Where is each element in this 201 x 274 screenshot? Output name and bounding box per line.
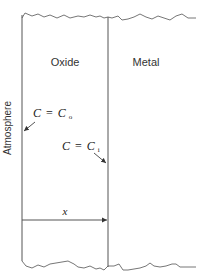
svg-text:C = C o: C = C o — [33, 106, 73, 121]
svg-text:C = C i: C = C i — [62, 139, 100, 154]
outer-rhs: C — [58, 106, 67, 120]
bottom-break-edge — [22, 261, 196, 270]
oxide-label: Oxide — [51, 56, 80, 68]
outer-sub: o — [69, 113, 73, 121]
outer-concentration-arrow — [24, 122, 35, 131]
inner-rhs: C — [87, 139, 96, 153]
oxide-metal-diagram: Oxide Metal Atmosphere C = C o C = C i x — [0, 0, 201, 274]
inner-eq: = — [75, 139, 82, 153]
outer-eq: = — [46, 106, 53, 120]
inner-sub: i — [98, 146, 100, 154]
inner-concentration-arrow — [94, 153, 106, 163]
thickness-label: x — [62, 205, 68, 217]
inner-concentration-label: C = C i — [62, 139, 100, 154]
outer-lhs: C — [33, 106, 42, 120]
atmosphere-label: Atmosphere — [2, 101, 13, 155]
metal-label: Metal — [133, 56, 160, 68]
inner-lhs: C — [62, 139, 71, 153]
outer-concentration-label: C = C o — [33, 106, 73, 121]
top-break-edge — [22, 13, 196, 20]
